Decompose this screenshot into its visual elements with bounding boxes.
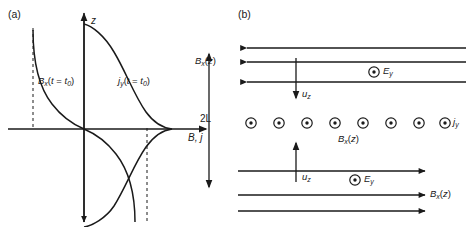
current-sheet-symbols: [246, 118, 450, 128]
upper-inflow-arrow: [293, 58, 300, 100]
lower-inflow-arrow: [293, 142, 300, 183]
upper-field-label: Bx(z): [195, 56, 216, 66]
bj-axis-label: B, j: [188, 133, 202, 143]
magnetic-field-curve-label: Bx(t = t0): [38, 76, 74, 86]
z-axis-label: z: [91, 16, 96, 26]
sheet-field-label: Bx(z): [338, 134, 359, 144]
panel-a-graphics: [0, 0, 234, 227]
lower-electric-field-symbol: [350, 175, 360, 185]
upper-field-lines: [247, 48, 466, 82]
current-density-curve-label: jy(t = t0): [118, 76, 150, 86]
upper-electric-field-label: Ey: [383, 66, 393, 76]
lower-field-lines: [238, 171, 425, 211]
lower-field-label: Bx(z): [430, 189, 451, 199]
upper-inflow-label: uz: [302, 89, 311, 99]
panel-a: (a) Bx(t = t0): [0, 0, 234, 227]
lower-electric-field-label: Ey: [364, 174, 374, 184]
thickness-label: 2L: [200, 114, 211, 124]
current-sheet-label: jy: [453, 117, 459, 127]
current-density-curve: [84, 24, 172, 227]
z-axis-arrowhead: [81, 13, 88, 22]
lower-inflow-label: uz: [302, 172, 311, 182]
figure-container: (a) Bx(t = t0): [0, 0, 468, 227]
upper-electric-field-symbol: [369, 67, 379, 77]
panel-b: (b): [234, 0, 468, 227]
